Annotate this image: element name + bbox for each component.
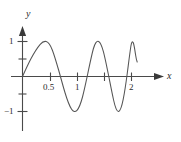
x-tick-label-0.5: 0.5 bbox=[43, 82, 54, 92]
y-tick-label-1: 1 bbox=[9, 36, 14, 46]
x-tick-label-1: 1 bbox=[75, 82, 80, 92]
x-axis-arrowhead bbox=[154, 73, 164, 80]
graph-figure: y x 1 −1 0.5 1 2 bbox=[0, 0, 181, 142]
y-axis-label: y bbox=[26, 8, 30, 19]
y-axis-arrowhead bbox=[19, 26, 26, 36]
x-tick-label-2: 2 bbox=[129, 82, 134, 92]
graph-canvas bbox=[0, 0, 181, 142]
x-axis-label: x bbox=[167, 70, 171, 81]
y-tick-label-minus-1: −1 bbox=[4, 106, 14, 116]
